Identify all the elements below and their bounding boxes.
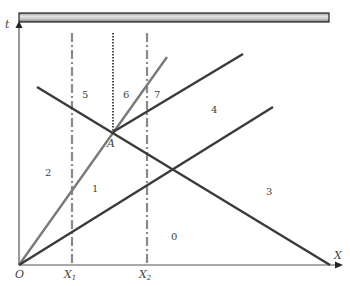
region-4-label: 4 (211, 104, 217, 115)
region-3-label: 3 (266, 186, 272, 197)
region-0-label: 0 (171, 231, 177, 242)
dark-rising-line-upper (113, 54, 243, 132)
x2-tick-label: X2 (138, 268, 152, 282)
region-1-label: 1 (92, 183, 98, 194)
region-6-label: 6 (123, 89, 129, 100)
point-a-label: A (106, 137, 115, 150)
region-5-label: 5 (82, 89, 88, 100)
x1-tick-label: X1 (63, 268, 76, 282)
t-axis-label: t (5, 18, 10, 31)
wave-diagram: t X O X1 X2 A 0 1 2 3 4 5 6 7 (0, 0, 350, 286)
x-axis-label: X (333, 249, 343, 262)
origin-label: O (15, 268, 24, 281)
x-axis-arrow-icon (335, 262, 343, 269)
region-7-label: 7 (154, 89, 160, 100)
rod-bar (19, 13, 329, 22)
region-2-label: 2 (45, 167, 51, 178)
